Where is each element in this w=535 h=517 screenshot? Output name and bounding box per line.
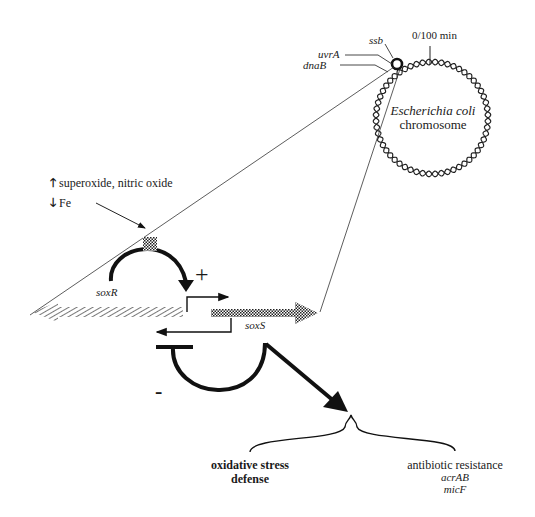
soxR-protein-arc: [111, 249, 186, 282]
chromosome-title-species: Escherichia coli: [383, 104, 483, 117]
up-arrow-icon: 🡑: [50, 176, 56, 190]
gene-label-ssb: ssb: [369, 35, 383, 46]
outcome-antibiotic-resistance: antibiotic resistance acrAB micF: [395, 459, 515, 495]
outcome-gene-micF: micF: [395, 484, 515, 495]
repression-sign: -: [155, 380, 162, 402]
activation-sign: +: [195, 262, 209, 286]
diagram-graphics: [0, 0, 535, 517]
zoom-line-left: [30, 67, 394, 315]
soxRS-regulation-diagram: 0/100 min ssb uvrA dnaB Escherichia coli…: [0, 0, 535, 517]
ssb-leader: [385, 44, 393, 58]
outcome-oxidative-stress: oxidative stress defense: [190, 459, 310, 485]
soxS-autoregulation-curve: [173, 343, 265, 390]
dnaB-leader: [340, 65, 388, 72]
soxR-promoter: [157, 318, 231, 332]
signal-up-label: superoxide, nitric oxide: [59, 176, 173, 190]
uvrA-leader: [345, 55, 392, 64]
signal-pointer-arrow: [96, 203, 145, 228]
soxR-activation-arrowhead: [178, 280, 194, 292]
outcome-gene-acrAB: acrAB: [395, 472, 515, 483]
signal-up: 🡑 superoxide, nitric oxide: [50, 177, 173, 189]
outcome-oxidative-line2: defense: [190, 473, 310, 485]
signal-down-label: Fe: [59, 196, 71, 210]
soxS-label: soxS: [245, 320, 265, 331]
iron-sulfur-cluster: [143, 237, 157, 251]
signal-down: 🡓 Fe: [50, 197, 71, 209]
origin-label: 0/100 min: [412, 30, 457, 41]
outcome-oxidative-line1: oxidative stress: [190, 459, 310, 471]
down-arrow-icon: 🡓: [50, 196, 56, 210]
target-brace: [250, 415, 455, 452]
chromosome-title: chromosome: [383, 118, 483, 131]
gene-label-dnaB: dnaB: [303, 60, 326, 71]
soxS-target-arrow: [266, 344, 335, 402]
soxR-label: soxR: [96, 287, 117, 298]
soxR-gene-arrow: [32, 302, 183, 322]
outcome-antibiotic-title: antibiotic resistance: [395, 459, 515, 471]
